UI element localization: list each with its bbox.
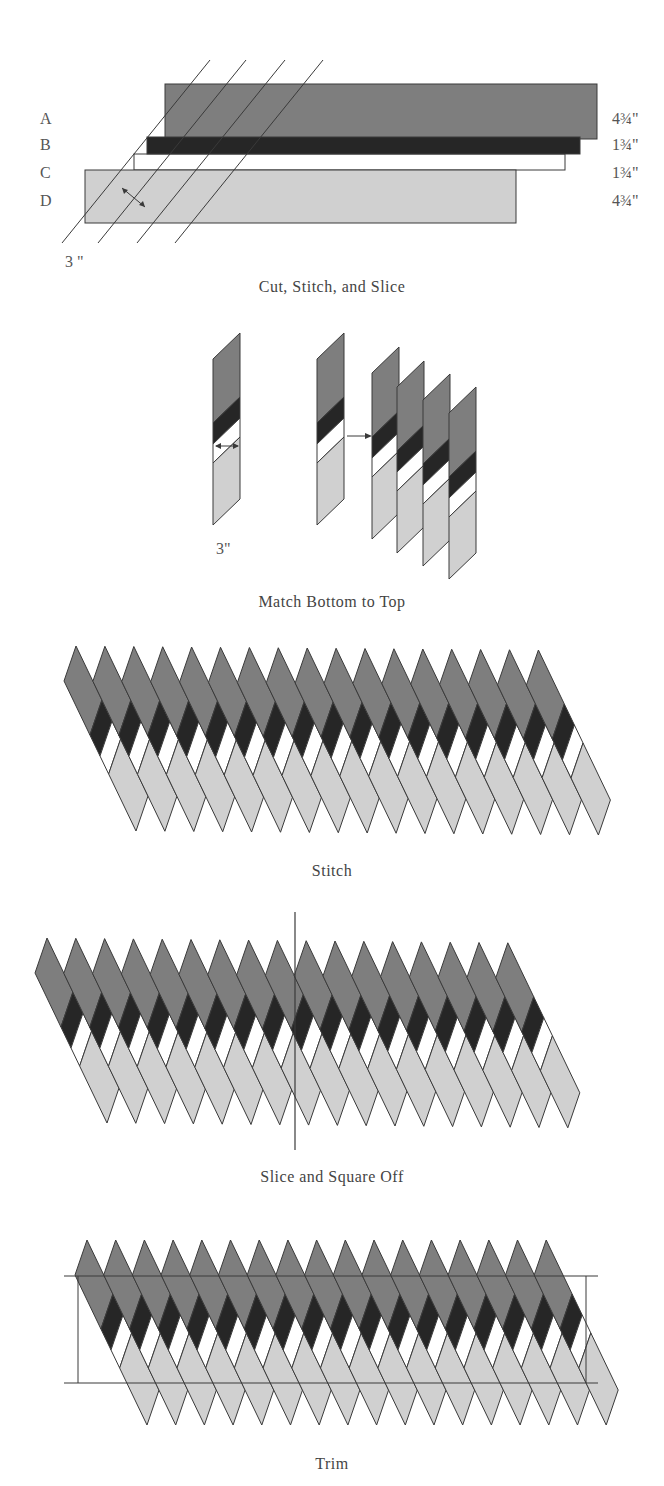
single-slice bbox=[213, 333, 240, 525]
strip-label-c: C bbox=[40, 164, 51, 182]
slice-offset-3 bbox=[423, 374, 450, 566]
slice-offset-2 bbox=[397, 361, 424, 553]
caption-stitch: Stitch bbox=[0, 862, 664, 880]
stitched-row bbox=[64, 646, 610, 835]
strip-set bbox=[62, 60, 597, 243]
strip-d bbox=[85, 170, 516, 223]
arrow-head bbox=[365, 433, 372, 439]
sliced-row bbox=[35, 938, 580, 1128]
strip-width-d: 4¾" bbox=[612, 192, 639, 210]
strip-label-b: B bbox=[40, 136, 51, 154]
slice-width-label: 3 " bbox=[65, 253, 84, 271]
caption-slice-square-off: Slice and Square Off bbox=[0, 1168, 664, 1186]
strip-label-d: D bbox=[40, 192, 52, 210]
strip-width-b: 1¾" bbox=[612, 136, 639, 154]
match-slices bbox=[213, 333, 476, 579]
strip-width-c: 1¾" bbox=[612, 164, 639, 182]
strip-a bbox=[165, 84, 597, 139]
quilt-diagram bbox=[0, 0, 664, 1486]
strip-width-a: 4¾" bbox=[612, 110, 639, 128]
strip-c bbox=[134, 154, 565, 170]
strip-label-a: A bbox=[40, 110, 52, 128]
caption-trim: Trim bbox=[0, 1455, 664, 1473]
slice-offset-1 bbox=[372, 347, 399, 539]
slice-offset-4 bbox=[449, 387, 476, 579]
slice-left bbox=[317, 333, 344, 525]
slice-width-label-2: 3" bbox=[216, 540, 231, 558]
caption-match-bottom-to-top: Match Bottom to Top bbox=[0, 593, 664, 611]
caption-cut-stitch-slice: Cut, Stitch, and Slice bbox=[0, 278, 664, 296]
trim-row bbox=[75, 1240, 618, 1425]
strip-b bbox=[147, 137, 580, 154]
